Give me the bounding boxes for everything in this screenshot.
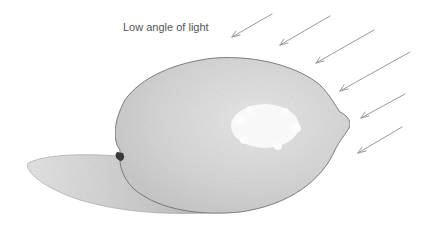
arrow-icon [361,94,405,118]
lemon-illustration [0,0,430,230]
arrow-icon [232,14,272,37]
arrow-icon [340,52,410,91]
arrow-icon [280,16,330,45]
arrow-icon [316,30,374,63]
arrow-icon [358,127,402,153]
lemon-body [115,58,350,214]
